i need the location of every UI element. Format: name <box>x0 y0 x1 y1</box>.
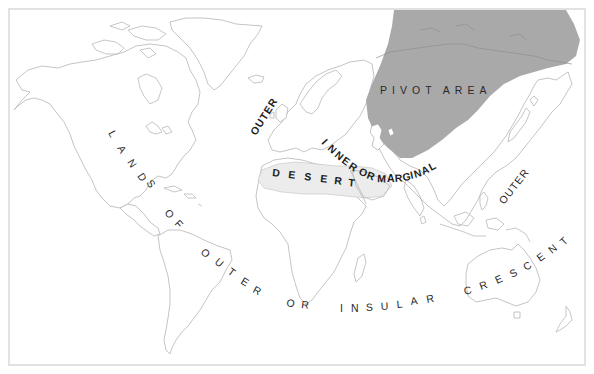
svg-text:E: E <box>239 275 251 289</box>
svg-text:M: M <box>377 172 387 185</box>
svg-text:R: R <box>425 292 435 305</box>
world-map: PIVOTAREA OUTER I N N E R O R M A R G I … <box>0 0 594 374</box>
north-america <box>14 44 200 208</box>
outer-asia-label: OUTER <box>496 166 531 206</box>
svg-text:S: S <box>304 170 312 183</box>
svg-text:A: A <box>410 294 419 307</box>
svg-text:I: I <box>340 302 343 314</box>
svg-text:O: O <box>162 207 176 221</box>
tasmania <box>514 312 520 318</box>
svg-text:N: N <box>351 302 359 314</box>
new-zealand <box>556 306 572 332</box>
iceland <box>248 75 264 83</box>
svg-text:R: R <box>301 298 310 311</box>
svg-text:E: E <box>288 168 296 181</box>
svg-text:U: U <box>380 299 388 312</box>
central-america <box>120 204 160 236</box>
svg-text:E: E <box>534 250 547 264</box>
svg-text:N: N <box>546 241 560 255</box>
svg-text:O: O <box>286 296 296 309</box>
svg-text:T: T <box>557 234 570 247</box>
caribbean-islands <box>164 186 202 206</box>
sri-lanka <box>420 216 426 224</box>
svg-text:L: L <box>396 297 403 310</box>
svg-text:S: S <box>366 301 373 313</box>
south-america <box>158 230 232 354</box>
philippines <box>480 192 488 210</box>
svg-text:OUTER: OUTER <box>496 166 531 206</box>
australia <box>466 244 540 306</box>
madagascar <box>354 254 366 282</box>
svg-text:E: E <box>320 172 328 185</box>
svg-text:F: F <box>173 217 186 230</box>
svg-text:R: R <box>251 283 264 297</box>
